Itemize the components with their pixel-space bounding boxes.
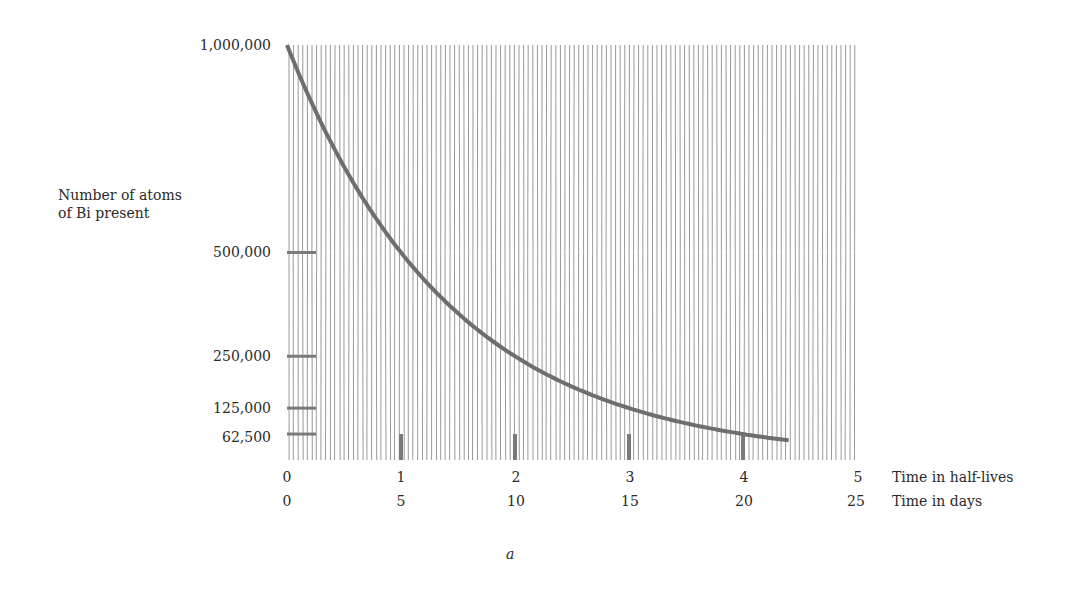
y-axis-title: Number of atoms of Bi present xyxy=(58,186,182,222)
y-tick-label-250000: 250,000 xyxy=(151,348,271,364)
y-tick-label-125000: 125,000 xyxy=(151,400,271,416)
y-axis-title-line2: of Bi present xyxy=(58,204,182,222)
x-days-label-15: 15 xyxy=(610,493,650,509)
x-halflife-label-1: 1 xyxy=(381,469,421,485)
x-halflife-label-5: 5 xyxy=(838,469,878,485)
y-axis-title-line1: Number of atoms xyxy=(58,186,182,204)
x-halflife-label-3: 3 xyxy=(610,469,650,485)
figure-caption: a xyxy=(506,546,514,562)
x-days-label-10: 10 xyxy=(496,493,536,509)
chart-plot-area xyxy=(0,0,1089,602)
x-days-label-25: 25 xyxy=(836,493,876,509)
x-halflife-label-0: 0 xyxy=(267,469,307,485)
y-tick-label-62500: 62,500 xyxy=(151,429,271,445)
x-days-label-20: 20 xyxy=(724,493,764,509)
x-days-label-5: 5 xyxy=(381,493,421,509)
x-halflife-label-4: 4 xyxy=(724,469,764,485)
vertical-hatch-grid xyxy=(289,45,855,460)
y-tick-label-500000: 500,000 xyxy=(151,244,271,260)
x-axis-title-half-lives: Time in half-lives xyxy=(892,469,1013,485)
x-days-label-0: 0 xyxy=(267,493,307,509)
x-axis-title-days: Time in days xyxy=(892,493,982,509)
x-halflife-label-2: 2 xyxy=(496,469,536,485)
y-tick-label-1000000: 1,000,000 xyxy=(151,37,271,53)
